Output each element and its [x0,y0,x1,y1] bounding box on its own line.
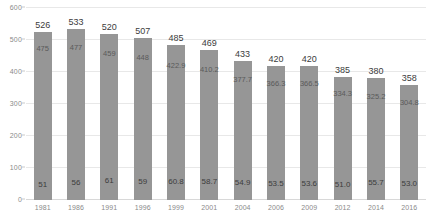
bar-upper-value-label: 448 [136,52,149,61]
bar-slot: 50744859 [126,8,159,200]
bar-lower-value-label: 59 [138,177,147,186]
x-axis-tick-label: 2012 [326,204,359,218]
bar-total-label: 420 [302,54,317,64]
y-axis-tick-label: 500 [10,36,22,43]
x-axis-tick-label: 2006 [259,204,292,218]
bar-total-label: 485 [168,33,183,43]
bar-upper-value-label: 459 [103,49,116,58]
bar-total-label: 469 [202,38,217,48]
bar-slot: 433377.754.9 [226,8,259,200]
bar-total-label: 433 [235,49,250,59]
bar-slot: 52647551 [26,8,59,200]
bar[interactable]: 53347756 [67,29,85,200]
bar-lower-value-label: 56 [72,178,81,187]
bar-total-label: 358 [402,73,417,83]
x-axis-tick-label: 2009 [293,204,326,218]
bar-lower-value-label: 53.6 [301,178,317,187]
bar-slot: 385334.351.0 [326,8,359,200]
y-axis-tick-mark [22,7,25,8]
bar[interactable]: 469410.258.7 [200,50,218,200]
x-axis-tick-label: 1991 [93,204,126,218]
bar-upper-value-label: 304.8 [400,98,419,107]
bar-slot: 380325.255.7 [359,8,392,200]
bar-lower-value-label: 53.5 [268,178,284,187]
bar-upper-value-label: 475 [36,44,49,53]
x-axis-tick-label: 2001 [193,204,226,218]
y-axis-tick-mark [22,39,25,40]
bar[interactable]: 52647551 [34,32,52,200]
bar-slot: 53347756 [59,8,92,200]
bar[interactable]: 385334.351.0 [334,77,352,200]
bar-upper-value-label: 366.3 [267,78,286,87]
bar[interactable]: 433377.754.9 [234,61,252,200]
bar-total-label: 520 [102,22,117,32]
plot-area: 6005004003002001000 52647551533477565204… [26,8,426,200]
bar-chart: 6005004003002001000 52647551533477565204… [0,0,428,222]
y-axis-tick-label: 0 [18,196,22,203]
x-axis-tick-label: 1981 [26,204,59,218]
bar-total-label: 526 [35,20,50,30]
x-axis: 1981198619911996199920012004200620092012… [26,204,426,218]
bar-lower-value-label: 58.7 [202,177,218,186]
bar-lower-value-label: 51 [38,179,47,188]
y-axis-tick-mark [22,167,25,168]
bar-lower-value-label: 53.0 [401,179,417,188]
bar-total-label: 533 [68,17,83,27]
y-axis-tick-mark [22,199,25,200]
bar[interactable]: 485422.960.8 [167,45,185,200]
y-axis-tick-mark [22,135,25,136]
bar-slot: 420366.553.6 [293,8,326,200]
bar-upper-value-label: 477 [70,43,83,52]
bar[interactable]: 420366.353.5 [267,66,285,200]
y-axis-tick-label: 600 [10,4,22,11]
bar-total-label: 380 [368,66,383,76]
bar[interactable]: 358304.853.0 [400,85,418,200]
bar-upper-value-label: 325.2 [367,91,386,100]
bar-slot: 485422.960.8 [159,8,192,200]
bar-upper-value-label: 366.5 [300,78,319,87]
bar-upper-value-label: 377.7 [233,75,252,84]
y-axis-tick-mark [22,103,25,104]
x-axis-tick-label: 1986 [59,204,92,218]
y-axis-tick-label: 300 [10,100,22,107]
y-axis-tick-label: 200 [10,132,22,139]
bar[interactable]: 380325.255.7 [367,78,385,200]
bar[interactable]: 420366.553.6 [300,66,318,200]
bar-total-label: 507 [135,26,150,36]
bar-slot: 52045961 [93,8,126,200]
x-axis-tick-label: 2004 [226,204,259,218]
bar[interactable]: 50744859 [134,38,152,200]
bar-lower-value-label: 61 [105,176,114,185]
bar-lower-value-label: 54.9 [235,178,251,187]
y-axis-tick-label: 100 [10,164,22,171]
bar-slot: 420366.353.5 [259,8,292,200]
bar[interactable]: 52045961 [100,34,118,200]
bar-series: 52647551533477565204596150744859485422.9… [26,8,426,200]
x-axis-tick-label: 1996 [126,204,159,218]
x-axis-tick-label: 2016 [393,204,426,218]
bar-total-label: 420 [268,54,283,64]
y-axis-tick-label: 400 [10,68,22,75]
bar-lower-value-label: 60.8 [168,176,184,185]
x-axis-tick-label: 1999 [159,204,192,218]
bar-slot: 469410.258.7 [193,8,226,200]
bar-upper-value-label: 422.9 [167,60,186,69]
y-axis-tick-mark [22,71,25,72]
bar-total-label: 385 [335,65,350,75]
bar-lower-value-label: 51.0 [335,179,351,188]
bar-slot: 358304.853.0 [393,8,426,200]
x-axis-tick-label: 2014 [359,204,392,218]
bar-upper-value-label: 334.3 [333,89,352,98]
bar-lower-value-label: 55.7 [368,178,384,187]
bar-upper-value-label: 410.2 [200,64,219,73]
